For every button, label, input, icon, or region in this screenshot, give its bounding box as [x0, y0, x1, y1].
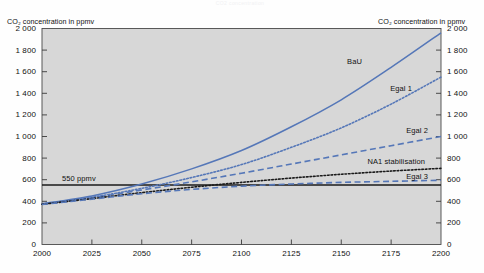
x-tick-label: 2050	[122, 249, 162, 258]
y-tick-label-right: 800	[447, 154, 481, 163]
y-tick-label-left: 1 200	[2, 110, 36, 119]
y-tick-label-left: 400	[2, 197, 36, 206]
y-tick-label-right: 600	[447, 175, 481, 184]
x-tick-label: 2175	[371, 249, 411, 258]
y-tick-label-right: 1 000	[447, 132, 481, 141]
label-series-egal2: Egal 2	[406, 126, 428, 135]
y-tick-label-right: 1 800	[447, 46, 481, 55]
label-series-bau: BaU	[347, 57, 362, 66]
co2-concentration-chart: CO2 concentration CO₂ concentration in p…	[0, 0, 484, 273]
label-series-na1-stabilisation: NA1 stabilisation	[367, 157, 425, 166]
y-tick-label-left: 1 600	[2, 67, 36, 76]
y-tick-label-left: 1 400	[2, 89, 36, 98]
y-tick-label-left: 1 800	[2, 46, 36, 55]
plot-canvas	[0, 0, 484, 273]
x-tick-label: 2025	[72, 249, 112, 258]
x-tick-label: 2200	[421, 249, 461, 258]
y-tick-label-left: 800	[2, 154, 36, 163]
y-tick-label-right: 2 000	[447, 24, 481, 33]
x-tick-label: 2150	[321, 249, 361, 258]
x-tick-label: 2000	[22, 249, 62, 258]
y-tick-label-right: 200	[447, 218, 481, 227]
x-tick-label: 2100	[222, 249, 262, 258]
plot-background	[42, 29, 441, 245]
y-tick-label-right: 1 200	[447, 110, 481, 119]
y-tick-label-left: 2 000	[2, 24, 36, 33]
label-series-egal3: Egal 3	[406, 172, 428, 181]
x-tick-label: 2125	[271, 249, 311, 258]
label-series-egal1: Egal 1	[390, 84, 412, 93]
y-tick-label-right: 1 600	[447, 67, 481, 76]
x-tick-label: 2075	[172, 249, 212, 258]
y-tick-label-left: 600	[2, 175, 36, 184]
y-tick-label-right: 400	[447, 197, 481, 206]
label-550-ppmv: 550 ppmv	[62, 174, 96, 183]
y-tick-label-left: 200	[2, 218, 36, 227]
y-tick-label-left: 1 000	[2, 132, 36, 141]
y-tick-label-right: 1 400	[447, 89, 481, 98]
